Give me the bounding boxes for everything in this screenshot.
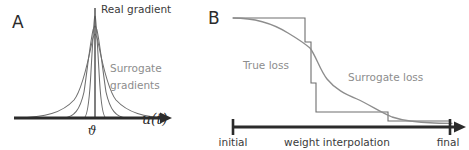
panel-b-true-loss-label: True loss <box>242 59 289 71</box>
panel-a-surrogate-gradients-label-line2: gradients <box>110 79 160 91</box>
panel-a-axis-label: u(t) <box>142 111 168 127</box>
panel-a-group: A Real gradient Surrogate gradients u(t)… <box>12 3 172 138</box>
panel-a-surrogate-gradients-label-line1: Surrogate <box>110 62 162 74</box>
figure-root: A Real gradient Surrogate gradients u(t)… <box>0 0 469 150</box>
panel-a-real-gradient-label: Real gradient <box>101 3 171 15</box>
panel-b-letter: B <box>208 8 220 28</box>
panel-b-axis-label-initial: initial <box>219 136 248 148</box>
panel-b-axis-arrowhead <box>454 122 466 133</box>
panel-b-axis-label-final: final <box>437 136 460 148</box>
figure-canvas: A Real gradient Surrogate gradients u(t)… <box>0 0 469 150</box>
panel-b-surrogate-loss-label: Surrogate loss <box>348 71 423 83</box>
panel-a-threshold-symbol: ϑ <box>88 124 97 138</box>
panel-b-group: B True loss Surrogate loss initial weigh… <box>208 8 466 148</box>
panel-b-axis-label-center: weight interpolation <box>284 136 390 148</box>
panel-a-letter: A <box>12 12 24 32</box>
